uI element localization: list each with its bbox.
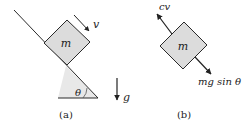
drag-force-arrow	[157, 14, 172, 34]
gravity-label: g	[123, 91, 130, 104]
angle-label: θ	[75, 87, 81, 98]
free-body-diagram: m v θ g (a) m cv mg sin θ (b)	[0, 0, 248, 128]
gravity-component-arrow	[195, 57, 211, 74]
drag-force-label: cv	[159, 1, 171, 12]
velocity-label: v	[93, 18, 100, 31]
caption-a: (a)	[59, 109, 73, 120]
panel-a: m v θ g (a)	[14, 10, 130, 120]
panel-b: m cv mg sin θ (b)	[157, 1, 241, 120]
mass-label-b: m	[178, 40, 188, 53]
mass-label-a: m	[61, 37, 71, 50]
gravity-component-label: mg sin θ	[198, 76, 241, 87]
caption-b: (b)	[177, 109, 191, 120]
